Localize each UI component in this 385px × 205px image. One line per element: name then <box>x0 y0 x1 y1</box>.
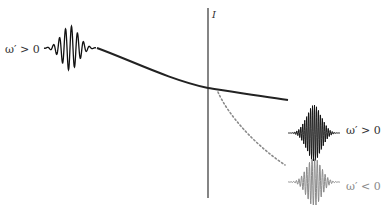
transmitted-negative-wave-packet-icon <box>288 159 340 205</box>
transmitted-positive-wave-packet-icon <box>288 105 340 161</box>
incident-wave-packet-icon <box>44 26 96 69</box>
incident-path <box>97 48 208 88</box>
diagram-canvas <box>0 0 385 205</box>
transmitted-negative-path <box>218 92 285 165</box>
transmitted-positive-path <box>208 88 288 100</box>
interface-label: I <box>212 10 216 20</box>
transmitted-negative-frequency-label: ω′ < 0 <box>346 181 381 192</box>
transmitted-positive-frequency-label: ω′ > 0 <box>346 125 381 136</box>
incident-frequency-label: ω′ > 0 <box>5 44 40 55</box>
